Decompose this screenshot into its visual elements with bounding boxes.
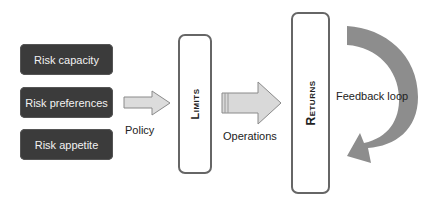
returns-box: Returns: [291, 12, 330, 194]
limits-label: Limits: [189, 88, 201, 119]
policy-arrow-icon: [124, 91, 170, 115]
arrows-layer: [0, 0, 436, 205]
feedback-loop-label: Feedback loop: [336, 90, 408, 102]
limits-box: Limits: [178, 34, 212, 174]
operations-label: Operations: [223, 130, 277, 142]
policy-label: Policy: [125, 124, 154, 136]
returns-label: Returns: [304, 80, 318, 125]
operations-arrow-icon: [222, 82, 281, 124]
